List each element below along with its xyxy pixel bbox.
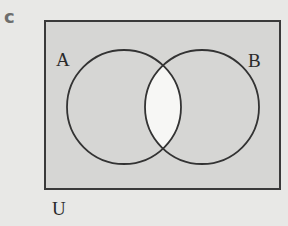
universal-set-label: U — [52, 198, 66, 219]
set-b-label: B — [248, 50, 261, 71]
venn-diagram: A B U — [0, 0, 288, 226]
set-a-label: A — [56, 49, 70, 70]
